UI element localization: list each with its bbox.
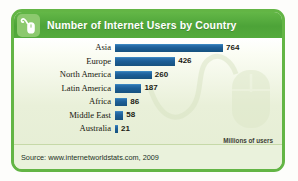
bar-track: 58: [115, 109, 282, 123]
chart-card: Number of Internet Users by Country Asia…: [11, 9, 285, 172]
category-label: Europe: [14, 57, 115, 66]
bar: [115, 125, 118, 134]
bar-track: 187: [115, 82, 282, 96]
chart-header: Number of Internet Users by Country: [14, 12, 282, 38]
computer-mouse-icon-glyph: [20, 16, 37, 35]
table-row: Europe 426: [14, 55, 282, 69]
axis-unit-label: Millions of users: [223, 137, 273, 144]
source-band: Source: www.internetworldstats.com, 2009: [14, 144, 282, 169]
bar: [115, 71, 152, 80]
plot-area: Asia 764 Europe 426 North America: [14, 38, 282, 151]
table-row: North America 260: [14, 68, 282, 82]
page-title: Number of Internet Users by Country: [47, 19, 237, 31]
bar: [115, 44, 223, 53]
bar-track: 764: [115, 41, 282, 55]
bar-series: Asia 764 Europe 426 North America: [14, 41, 282, 136]
bar-value-label: 21: [121, 125, 130, 133]
bar-value-label: 187: [144, 84, 157, 92]
table-row: Latin America 187: [14, 82, 282, 96]
bar-value-label: 260: [155, 71, 168, 79]
chart-figure: Number of Internet Users by Country Asia…: [0, 0, 298, 181]
table-row: Asia 764: [14, 41, 282, 55]
bar: [115, 111, 123, 120]
table-row: Middle East 58: [14, 109, 282, 123]
source-text: Source: www.internetworldstats.com, 2009: [21, 153, 159, 162]
bar: [115, 57, 175, 66]
category-label: Australia: [14, 124, 115, 133]
bar-value-label: 86: [130, 98, 139, 106]
bar-track: 426: [115, 55, 282, 69]
bar-track: 21: [115, 122, 282, 136]
category-label: Asia: [14, 43, 115, 52]
computer-mouse-icon: [17, 14, 40, 37]
bar-value-label: 764: [226, 44, 239, 52]
category-label: Middle East: [14, 111, 115, 120]
bar-value-label: 58: [126, 111, 135, 119]
category-label: North America: [14, 70, 115, 79]
table-row: Africa 86: [14, 95, 282, 109]
bar-track: 260: [115, 68, 282, 82]
bar-track: 86: [115, 95, 282, 109]
table-row: Australia 21: [14, 122, 282, 136]
category-label: Latin America: [14, 84, 115, 93]
bar: [115, 84, 141, 93]
bar: [115, 98, 127, 107]
category-label: Africa: [14, 97, 115, 106]
bar-value-label: 426: [178, 57, 191, 65]
